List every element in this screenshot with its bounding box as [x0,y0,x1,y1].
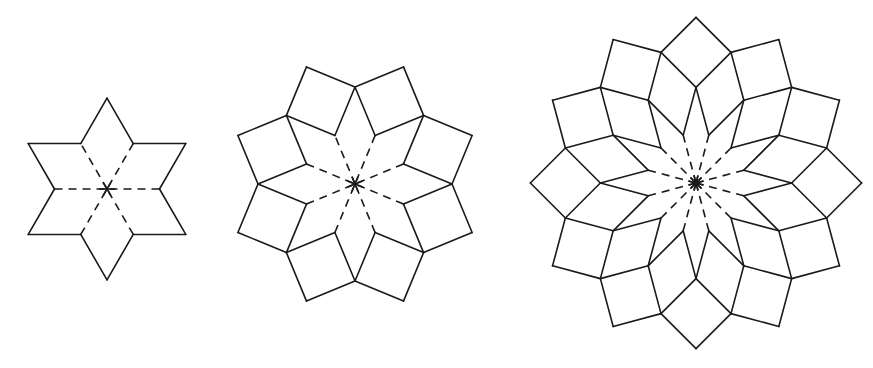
center-hub-stroke [107,189,111,196]
rhombus-edge [779,135,827,148]
rhombus-edge [565,148,600,183]
rhombus-edge [661,314,696,349]
rhombus-edge [553,100,566,148]
rhombus-edge [600,231,613,279]
rhombus-edge [81,234,107,279]
rhombus-edge [661,52,696,87]
rhombus-edge [648,52,661,100]
rhombus-edge [28,144,54,189]
rhombus-edge [696,87,709,135]
rhombus-edge [792,148,827,183]
eight-fold-rosette-figure [238,67,472,301]
rhombus-edge [792,266,840,279]
rhombus-edge [648,266,661,314]
rhombus-edge [107,234,133,279]
rhombus-edge [744,183,792,196]
rhombus-edge [744,87,792,100]
rhombus-edge [600,183,648,196]
rhombus-edge [160,189,186,234]
rhombus-edge [779,40,792,88]
center-hub-stroke [107,182,111,189]
rhombus-edge [731,40,779,53]
rhombus-edge [779,87,792,135]
rhombus-edge [307,281,356,301]
rhombus-edge [307,67,356,87]
rhombus-edge [355,281,404,301]
rhombus-edge [452,184,472,233]
rhombus-edge [238,233,287,253]
rhombus-edge [286,67,306,116]
rhombus-edge [258,184,307,204]
rhombus-edge [696,279,731,314]
rhombus-edge [452,136,472,185]
rhombus-edge [286,253,306,302]
rhombus-edge [792,87,840,100]
rhombus-edge [827,100,840,148]
rhombus-edge [661,17,696,52]
rhombus-edge [613,314,661,327]
rhombus-rosette-diagram [0,0,873,368]
rhombus-edge [827,218,840,266]
rhombus-edge [424,115,473,135]
six-fold-star-figure [28,98,186,280]
rhombus-edge [827,183,862,218]
rhombus-edge [238,136,258,185]
rhombus-edge [565,135,613,148]
center-hub-stroke [103,189,107,196]
rhombus-edge [779,279,792,327]
rhombus-edge [335,233,355,282]
rhombus-edge [792,183,827,218]
rhombus-edge [424,233,473,253]
rhombus-edge [530,183,565,218]
rhombus-edge [661,279,696,314]
rhombus-edge [355,67,404,87]
rhombus-edge [404,253,424,302]
rhombus-edge [827,148,862,183]
rhombus-edge [779,231,792,279]
rhombus-edge [553,266,601,279]
rhombus-edge [696,52,731,87]
rhombus-edge [530,148,565,183]
rhombus-edge [565,218,613,231]
rhombus-edge [553,218,566,266]
rhombus-edge [160,144,186,189]
rhombus-edge [238,115,287,135]
rhombus-edge [600,279,613,327]
rhombus-edge [258,164,307,184]
rhombus-edge [696,314,731,349]
rhombus-edge [238,184,258,233]
rhombus-edge [404,67,424,116]
rhombus-edge [613,40,661,53]
rhombus-edge [81,98,107,143]
rhombus-edge [696,17,731,52]
rhombus-edge [744,170,792,183]
rhombus-edge [779,218,827,231]
rhombus-edge [600,170,648,183]
rhombus-edge [553,87,601,100]
rhombus-edge [683,87,696,135]
center-hub-stroke [103,182,107,189]
rhombus-edge [600,87,648,100]
rhombus-edge [731,266,744,314]
rhombus-edge [683,231,696,279]
rhombus-edge [731,52,744,100]
rhombus-edge [731,314,779,327]
rhombus-edge [107,98,133,143]
rhombus-edge [565,183,600,218]
rhombus-edge [28,189,54,234]
rhombus-edge [696,231,709,279]
rhombus-edge [600,40,613,88]
rhombus-edge [355,233,375,282]
rhombus-edge [600,87,613,135]
rhombus-edge [404,184,453,204]
rhombus-edge [600,266,648,279]
rhombus-edge [404,164,453,184]
rhombus-edge [335,87,355,136]
twelve-fold-rosette-figure [530,17,861,348]
rhombus-edge [355,87,375,136]
rhombus-edge [744,266,792,279]
